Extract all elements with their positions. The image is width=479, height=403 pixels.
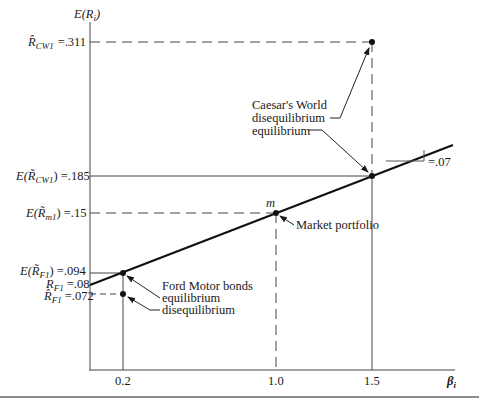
caesar-eq-label: equilibrium: [252, 124, 311, 138]
point-cw-eq: [369, 173, 375, 179]
ford-diseq-label: disequilibrium: [162, 303, 235, 317]
caesar-title: Caesar's World: [252, 98, 328, 112]
x-tick-1-0: 1.0: [268, 374, 284, 388]
point-ford-diseq: [120, 291, 126, 297]
y-label-cw-eq: E(R̃CW1) =.185: [15, 169, 90, 185]
y-label-market: E(R̃m1) =.15: [25, 206, 86, 222]
market-point-label: m: [266, 196, 275, 210]
caesar-diseq-arrow: [330, 48, 369, 118]
market-portfolio-label: Market portfolio: [296, 218, 379, 232]
caesar-diseq-label: disequilibrium: [252, 111, 325, 125]
point-ford-eq: [120, 270, 126, 276]
y-label-cw-hat: R̂CW1=.311: [27, 35, 86, 51]
caesar-eq-arrow: [308, 130, 368, 172]
point-cw-diseq: [369, 39, 375, 45]
security-market-line: [90, 145, 453, 285]
market-arrow: [280, 216, 294, 225]
y-axis-label: E(Ri): [73, 7, 100, 23]
sml-chart: =.07 E(Ri) βi 0.2 1.0 1.5 R̂CW1=.311 E(R…: [0, 0, 479, 403]
y-label-ford-hat: R̂F1 =.072: [43, 289, 94, 305]
x-tick-0-2: 0.2: [115, 374, 131, 388]
ford-eq-arrow: [127, 276, 160, 298]
point-market: [273, 210, 279, 216]
x-axis-label: βi: [446, 374, 456, 390]
x-tick-1-5: 1.5: [364, 374, 380, 388]
slope-label: =.07: [428, 155, 451, 169]
ford-diseq-arrow: [128, 297, 160, 310]
